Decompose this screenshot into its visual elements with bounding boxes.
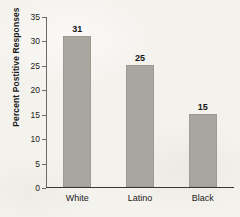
y-tick-mark <box>42 41 46 42</box>
bar-value-label: 15 <box>198 102 208 112</box>
bar-value-label: 31 <box>72 24 82 34</box>
bar: 15Black <box>189 114 217 187</box>
x-category-label: Latino <box>128 193 153 203</box>
y-tick-mark <box>42 90 46 91</box>
y-tick-label: 5 <box>35 159 40 169</box>
y-tick-label: 30 <box>31 36 40 46</box>
y-tick-mark <box>42 139 46 140</box>
y-tick-label: 0 <box>35 183 40 193</box>
y-tick-label: 35 <box>31 12 40 22</box>
y-tick-label: 20 <box>31 85 40 95</box>
bar-chart: Percent Postitive Responses 051015202530… <box>0 0 240 217</box>
y-tick-mark <box>42 17 46 18</box>
y-tick-mark <box>42 188 46 189</box>
y-tick-mark <box>42 164 46 165</box>
bar-value-label: 25 <box>135 53 145 63</box>
y-tick-label: 25 <box>31 61 40 71</box>
bar: 25Latino <box>126 65 154 187</box>
x-category-label: White <box>66 193 89 203</box>
y-tick-mark <box>42 115 46 116</box>
y-tick-label: 10 <box>31 134 40 144</box>
bar: 31White <box>63 36 91 187</box>
y-axis-line <box>46 17 47 188</box>
y-axis-label: Percent Postitive Responses <box>11 0 21 155</box>
x-category-label: Black <box>192 193 214 203</box>
plot-area: 05101520253035 31White25Latino15Black <box>46 17 234 188</box>
y-tick-label: 15 <box>31 110 40 120</box>
y-tick-mark <box>42 66 46 67</box>
